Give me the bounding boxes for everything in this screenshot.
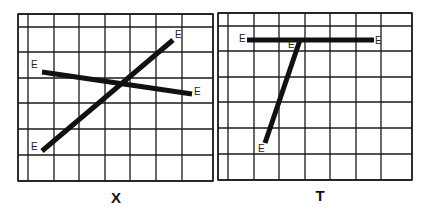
endpoint-label: E bbox=[288, 39, 295, 50]
panel-caption: T bbox=[315, 187, 324, 204]
endpoint-label: E bbox=[175, 29, 182, 40]
stroke-segment bbox=[42, 40, 173, 151]
panel-x: EEEEX bbox=[18, 14, 213, 206]
grid-frame bbox=[18, 14, 213, 181]
endpoint-label: E bbox=[239, 33, 246, 44]
endpoint-label: E bbox=[31, 59, 38, 70]
endpoint-label: E bbox=[194, 86, 201, 97]
panel-caption: X bbox=[111, 189, 121, 206]
endpoint-label: E bbox=[375, 35, 382, 46]
endpoint-label: E bbox=[258, 143, 265, 154]
panel-t: EEEET bbox=[218, 13, 412, 204]
endpoint-label: E bbox=[31, 141, 38, 152]
grid bbox=[18, 14, 213, 181]
diagram-canvas: EEEEXEEEET bbox=[0, 0, 429, 219]
